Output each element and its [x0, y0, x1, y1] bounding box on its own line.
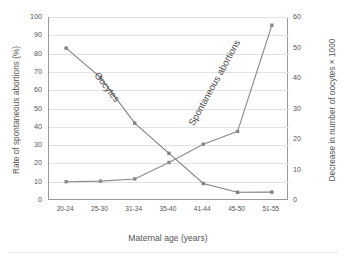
data-point-marker [202, 142, 205, 145]
y-axis-left-tick-label: 40 [20, 122, 42, 131]
y-axis-left-tick-label: 0 [20, 195, 42, 204]
y-axis-right-tick-label: 20 [293, 134, 315, 143]
bottom-divider [8, 252, 338, 253]
series-line-1 [66, 25, 272, 181]
x-axis-tick-label: 51-55 [249, 205, 293, 212]
y-axis-left-tick-label: 90 [20, 30, 42, 39]
y-axis-right-tick-label: 10 [293, 165, 315, 174]
data-point-marker [64, 46, 67, 49]
plot-area [48, 17, 288, 200]
y-axis-left-tick-label: 100 [20, 12, 42, 21]
data-series-layer [49, 17, 289, 200]
y-axis-left-tick-label: 10 [20, 177, 42, 186]
data-point-marker [236, 191, 239, 194]
chart-figure: Rate of spontaneous abortions (%) Decrea… [0, 0, 345, 257]
y-axis-right-tick-label: 30 [293, 104, 315, 113]
data-point-marker [167, 152, 170, 155]
y-axis-left-tick-label: 30 [20, 140, 42, 149]
y-axis-left-tick-label: 20 [20, 158, 42, 167]
y-axis-right-title: Decrease in number of oocytes × 1000 [327, 25, 337, 195]
y-axis-left-tick-label: 80 [20, 49, 42, 58]
data-point-marker [270, 24, 273, 27]
data-point-marker [99, 179, 102, 182]
x-axis-title: Maternal age (years) [48, 233, 288, 243]
y-axis-right-tick-label: 0 [293, 195, 315, 204]
data-point-marker [133, 177, 136, 180]
data-point-marker [202, 182, 205, 185]
y-axis-left-tick-label: 60 [20, 85, 42, 94]
y-axis-left-tick-label: 70 [20, 67, 42, 76]
data-point-marker [236, 130, 239, 133]
y-axis-right-tick-label: 60 [293, 12, 315, 21]
data-point-marker [133, 121, 136, 124]
data-point-marker [64, 180, 67, 183]
data-point-marker [167, 161, 170, 164]
data-point-marker [270, 190, 273, 193]
y-axis-left-tick-label: 50 [20, 104, 42, 113]
y-axis-right-tick-label: 50 [293, 43, 315, 52]
y-axis-right-tick-label: 40 [293, 73, 315, 82]
